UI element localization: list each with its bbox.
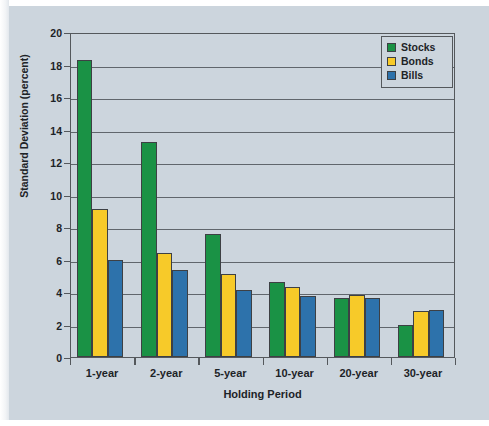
y-tick-label: 20 — [36, 28, 62, 39]
y-axis-title: Standard Deviation (percent) — [18, 6, 30, 246]
y-tick-label: 14 — [36, 126, 62, 137]
bar-stocks-20-year — [334, 298, 350, 357]
bar-bonds-30-year — [413, 311, 429, 357]
bar-bills-30-year — [429, 310, 445, 357]
legend: Stocks Bonds Bills — [381, 36, 453, 88]
bar-bills-5-year — [236, 290, 252, 357]
x-tick-mark — [455, 358, 456, 365]
x-category-label: 30-year — [383, 367, 463, 379]
legend-swatch-bills — [387, 71, 396, 80]
gridline — [71, 197, 454, 198]
y-tick-label: 8 — [36, 223, 62, 234]
gridline — [71, 229, 454, 230]
y-tick-label: 6 — [36, 256, 62, 267]
legend-swatch-stocks — [387, 43, 396, 52]
x-tick-mark — [70, 358, 71, 365]
y-tick-label: 0 — [36, 353, 62, 364]
legend-label-bonds: Bonds — [401, 56, 434, 67]
y-tick-label: 4 — [36, 288, 62, 299]
gridline — [71, 327, 454, 328]
x-tick-mark — [198, 358, 199, 365]
y-tick-label: 10 — [36, 191, 62, 202]
bar-stocks-10-year — [269, 282, 285, 357]
gridline — [71, 294, 454, 295]
gridline — [71, 164, 454, 165]
bar-bills-20-year — [365, 298, 381, 357]
y-tick-label: 2 — [36, 321, 62, 332]
y-tick-label: 12 — [36, 158, 62, 169]
bar-bonds-20-year — [349, 295, 365, 357]
legend-swatch-bonds — [387, 57, 396, 66]
bar-stocks-1-year — [77, 60, 93, 357]
bar-bills-1-year — [108, 260, 124, 358]
bar-bonds-5-year — [221, 274, 237, 357]
bar-stocks-5-year — [205, 234, 221, 358]
x-tick-mark — [263, 358, 264, 365]
bar-bills-10-year — [300, 296, 316, 357]
x-tick-mark — [391, 358, 392, 365]
y-tick-label: 18 — [36, 61, 62, 72]
gridline — [71, 132, 454, 133]
chart-screenshot: Standard Deviation (percent) 02468101214… — [0, 0, 489, 426]
x-tick-mark — [134, 358, 135, 365]
x-axis-title: Holding Period — [70, 388, 455, 400]
bar-stocks-30-year — [398, 325, 414, 357]
bar-bonds-10-year — [285, 287, 301, 357]
bar-bonds-1-year — [92, 209, 108, 357]
bar-stocks-2-year — [141, 142, 157, 357]
y-tick-label: 16 — [36, 93, 62, 104]
legend-label-bills: Bills — [401, 70, 423, 81]
legend-label-stocks: Stocks — [401, 42, 435, 53]
bar-bonds-2-year — [157, 253, 173, 357]
legend-item-bills: Bills — [387, 69, 447, 82]
legend-item-bonds: Bonds — [387, 55, 447, 68]
gridline — [71, 262, 454, 263]
x-tick-mark — [327, 358, 328, 365]
legend-item-stocks: Stocks — [387, 41, 447, 54]
gridline — [71, 99, 454, 100]
bar-bills-2-year — [172, 270, 188, 357]
bar-chart: Standard Deviation (percent) 02468101214… — [0, 0, 489, 426]
